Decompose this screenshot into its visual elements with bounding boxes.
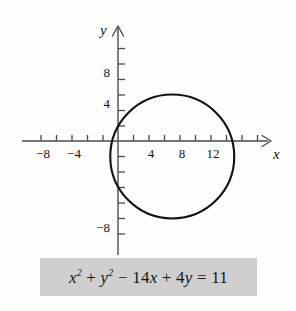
figure-container: −8 −4 4 8 12 8 4 −8 x y x2 + y2 − 14x + … [0, 0, 296, 311]
x-tick-label-4: 4 [144, 146, 158, 162]
y-axis-label: y [100, 22, 107, 39]
y-tick-label-8: 8 [96, 65, 110, 81]
eqn-op-minus-14: − 14 [114, 267, 150, 286]
eqn-var-y2: y [185, 267, 193, 286]
y-tick-label--8: −8 [88, 220, 110, 236]
y-tick-label-4: 4 [96, 96, 110, 112]
equation-caption-box: x2 + y2 − 14x + 4y = 11 [40, 258, 257, 296]
eqn-var-x1: x [69, 267, 77, 286]
x-tick-label--8: −8 [34, 146, 52, 162]
eqn-op-plus-1: + [82, 267, 101, 286]
equation-text: x2 + y2 − 14x + 4y = 11 [69, 267, 228, 288]
x-axis-label: x [273, 146, 280, 163]
x-axis-ticks [41, 135, 258, 141]
x-tick-label--4: −4 [65, 146, 83, 162]
x-tick-label-8: 8 [175, 146, 189, 162]
eqn-op-plus-4: + 4 [157, 267, 184, 286]
x-tick-label-12: 12 [203, 146, 223, 162]
eqn-equals-11: = 11 [193, 267, 228, 286]
